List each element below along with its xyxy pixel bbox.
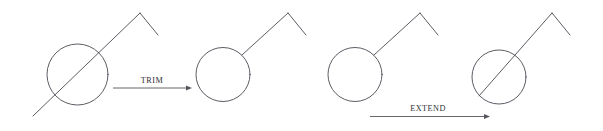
diagonal-line-after-extend: [479, 13, 552, 96]
circle-after-trim: [196, 48, 250, 102]
figure-after-trim: [196, 13, 306, 102]
trim-extend-diagram: TRIM EXTEND: [0, 0, 603, 131]
chevron-after-extend: [552, 13, 570, 35]
trim-label: TRIM: [141, 76, 164, 85]
circle-after-extend: [472, 50, 526, 104]
figure-before-extend: [328, 13, 438, 102]
extend-arrow-head: [484, 114, 490, 119]
chevron-after-trim: [288, 13, 306, 35]
figure-after-extend: [472, 13, 570, 104]
figure-before-trim: [33, 13, 158, 116]
diagonal-line-after-trim: [242, 13, 288, 55]
chevron-before-extend: [420, 13, 438, 35]
diagram-canvas: TRIM EXTEND: [0, 0, 603, 131]
trim-operation: TRIM: [113, 76, 192, 90]
extend-operation: EXTEND: [370, 104, 490, 119]
circle-before-extend: [328, 48, 382, 102]
trim-arrow-head: [186, 86, 192, 91]
chevron-before-trim: [140, 13, 158, 35]
diagonal-line-before-extend: [374, 13, 420, 55]
extend-label: EXTEND: [410, 104, 446, 113]
